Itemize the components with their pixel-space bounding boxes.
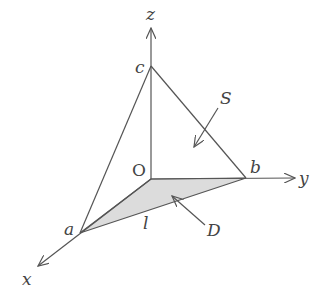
z-axis-label: z	[145, 4, 156, 24]
y-axis-label: y	[298, 168, 309, 188]
x-axis-label: x	[22, 269, 32, 289]
region-pointer-arrow	[172, 196, 205, 225]
edge-cb	[151, 66, 246, 178]
edge-l-label: l	[143, 213, 148, 233]
x-axis	[38, 179, 151, 266]
diagram-canvas: z y x O a b c l S D	[0, 0, 324, 297]
origin-label: O	[132, 160, 146, 180]
region-d-label: D	[206, 220, 221, 240]
point-a-label: a	[64, 219, 74, 239]
point-c-label: c	[135, 57, 145, 77]
y-axis	[151, 178, 295, 179]
surface-s-label: S	[220, 88, 232, 108]
point-b-label: b	[250, 157, 261, 177]
region-d	[80, 178, 246, 233]
